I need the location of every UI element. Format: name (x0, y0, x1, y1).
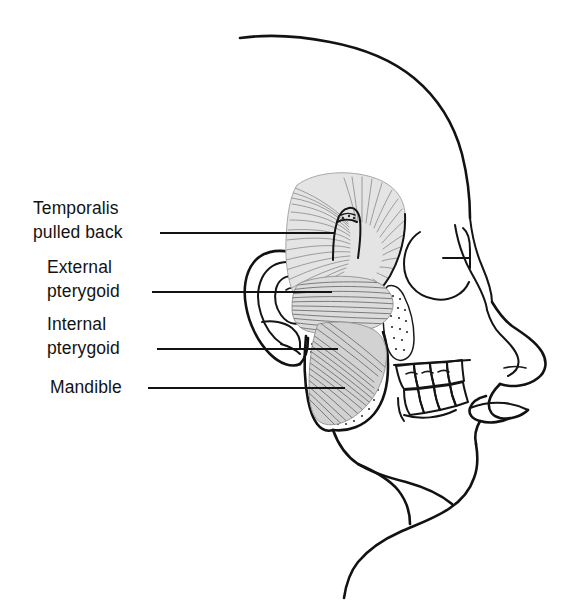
label-temporalis-line2: pulled back (33, 222, 123, 242)
label-internal-pterygoid-line1: Internal (47, 314, 106, 334)
diagram-background (0, 0, 577, 612)
label-temporalis-line1: Temporalis (33, 198, 119, 218)
anatomical-diagram: Temporalis pulled back External pterygoi… (0, 0, 577, 612)
label-external-pterygoid-line2: pterygoid (47, 281, 120, 301)
label-mandible: Mandible (50, 377, 122, 397)
label-internal-pterygoid-line2: pterygoid (47, 338, 120, 358)
label-mandible-line1: Mandible (50, 377, 122, 397)
label-external-pterygoid-line1: External (47, 257, 112, 277)
